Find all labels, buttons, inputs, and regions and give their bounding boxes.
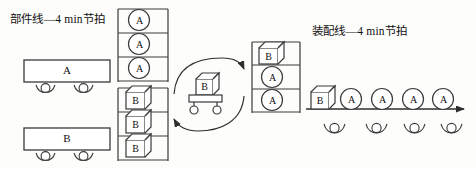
rack-a-item-0: A: [129, 15, 150, 26]
cart-loop-group: [174, 58, 244, 131]
assembly-line-circle-1: A: [372, 94, 393, 105]
assembly-rack-item-2: A: [262, 95, 283, 106]
rack-a-item-1: A: [129, 39, 150, 50]
assembly-line-circle-3: A: [433, 94, 454, 105]
assembly-line-title: 装配线—4 min节拍: [312, 22, 407, 38]
assembly-rack-item-0: B: [259, 51, 278, 62]
assembly-line-first-item: B: [311, 95, 329, 106]
cart-load-label: B: [196, 81, 213, 92]
assembly-line-circle-2: A: [403, 94, 424, 105]
rack-b-item-1: B: [126, 119, 145, 130]
component-line-title: 部件线—4 min节拍: [10, 10, 105, 26]
diagram-canvas: 部件线—4 min节拍 装配线—4 min节拍 A B A A A B B B …: [0, 0, 476, 169]
rack-b-item-2: B: [126, 143, 145, 154]
station-b-label: B: [24, 132, 110, 144]
assembly-rack-item-1: A: [262, 72, 283, 83]
station-a-label: A: [24, 64, 110, 76]
rack-b-item-0: B: [126, 95, 145, 106]
assembly-line-circle-0: A: [341, 94, 362, 105]
rack-a-item-2: A: [129, 63, 150, 74]
